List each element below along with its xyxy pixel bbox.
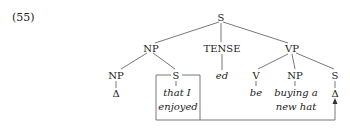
leaf-enjoyed: enjoyed	[158, 101, 197, 112]
node-tense: TENSE	[204, 43, 241, 54]
node-np: NP	[143, 43, 158, 54]
leaf-ed: ed	[216, 70, 228, 81]
node-np-inner: NP	[108, 70, 123, 81]
node-s-vp: S	[332, 70, 339, 81]
node-s-root: S	[218, 12, 225, 23]
leaf-buying-a: buying a	[274, 87, 318, 98]
node-np-vp: NP	[287, 70, 302, 81]
leaf-that-i: that I	[163, 87, 191, 98]
example-number: (55)	[12, 11, 35, 24]
node-np-delta: Δ	[112, 88, 119, 99]
node-v: V	[252, 70, 259, 81]
node-vp: VP	[285, 43, 299, 54]
node-s-boxed: S	[173, 70, 180, 81]
node-s-delta: Δ	[331, 88, 338, 99]
leaf-be: be	[250, 87, 262, 98]
leaf-new-hat: new hat	[276, 101, 317, 112]
